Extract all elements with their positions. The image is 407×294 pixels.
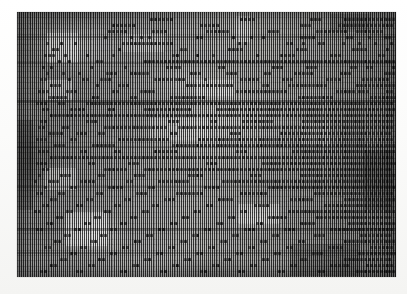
card-region [17,12,396,277]
edge-vignette [17,12,396,277]
screenshot-stage [0,0,407,294]
